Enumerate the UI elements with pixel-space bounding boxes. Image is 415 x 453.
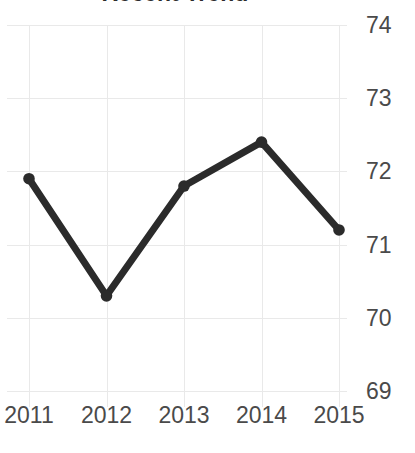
plot-area: [29, 25, 339, 391]
data-point-2015: [333, 224, 345, 236]
data-point-2013: [178, 180, 190, 192]
y-tick-69: 69: [366, 380, 410, 403]
x-tick-2013: 2013: [146, 404, 222, 427]
y-tick-71: 71: [366, 233, 410, 256]
y-tick-73: 73: [366, 87, 410, 110]
series-polyline: [29, 142, 339, 296]
data-point-2011: [23, 173, 35, 185]
series-markers: [23, 136, 345, 301]
y-tick-74: 74: [366, 14, 410, 37]
x-tick-2014: 2014: [224, 404, 300, 427]
data-point-2012: [101, 290, 113, 302]
x-tick-2011: 2011: [0, 404, 67, 427]
x-tick-2012: 2012: [69, 404, 145, 427]
data-point-2014: [256, 136, 268, 148]
data-series-line: [0, 0, 415, 453]
y-tick-72: 72: [366, 160, 410, 183]
y-tick-70: 70: [366, 306, 410, 329]
x-tick-2015: 2015: [301, 404, 377, 427]
line-chart: Recent Trend 747372717069 20112012201320…: [0, 0, 415, 453]
